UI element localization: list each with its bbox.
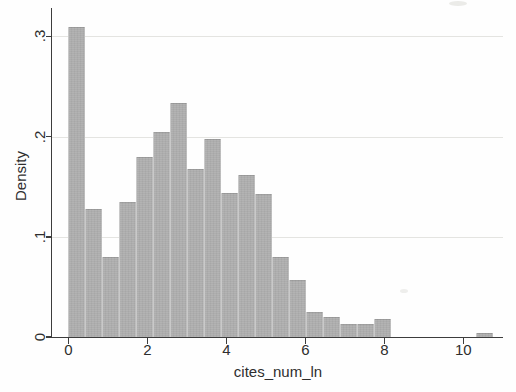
x-tick-label: 0 — [64, 342, 72, 357]
histogram-bar — [187, 169, 204, 337]
histogram-bar — [289, 280, 306, 337]
histogram-bar — [68, 27, 85, 337]
x-axis-title: cites_num_ln — [234, 363, 322, 380]
histogram-figure: 0246810 0.1.2.3 Density cites_num_ln — [0, 0, 516, 392]
gridline — [52, 36, 503, 37]
histogram-bar — [374, 319, 391, 337]
x-tick-label: 10 — [455, 342, 472, 357]
x-tick-mark — [68, 338, 70, 344]
histogram-bar — [255, 194, 272, 337]
x-tick-mark — [147, 338, 149, 344]
scan-artifact — [400, 289, 408, 293]
histogram-bar — [85, 209, 102, 337]
histogram-bar — [238, 175, 255, 337]
x-axis-line — [51, 337, 503, 339]
x-tick-label: 6 — [301, 342, 309, 357]
x-tick-label: 8 — [380, 342, 388, 357]
histogram-bar — [221, 193, 238, 337]
y-axis-title: Density — [12, 151, 29, 201]
histogram-bar — [102, 257, 119, 337]
x-tick-label: 2 — [143, 342, 151, 357]
histogram-bar — [357, 324, 374, 337]
histogram-bar — [119, 202, 136, 337]
y-axis-line — [51, 8, 53, 338]
y-tick-label: .1 — [32, 231, 47, 244]
y-tick-label: 0 — [32, 333, 47, 341]
x-tick-mark — [384, 338, 386, 344]
histogram-bar — [204, 139, 221, 337]
scan-artifact — [449, 1, 467, 6]
y-tick-mark — [46, 36, 52, 38]
histogram-bar — [170, 103, 187, 337]
histogram-bar — [153, 132, 170, 337]
gridline — [52, 137, 503, 138]
histogram-bar — [306, 312, 323, 337]
x-tick-mark — [463, 338, 465, 344]
histogram-bar — [323, 317, 340, 337]
histogram-bar — [340, 324, 357, 337]
histogram-bar — [272, 257, 289, 337]
y-tick-label: .3 — [32, 30, 47, 43]
y-tick-mark — [46, 336, 52, 338]
x-tick-mark — [305, 338, 307, 344]
y-tick-mark — [46, 136, 52, 138]
histogram-bar — [136, 157, 153, 337]
plot-area — [52, 10, 503, 337]
x-tick-label: 4 — [222, 342, 230, 357]
y-tick-label: .2 — [32, 130, 47, 143]
x-tick-mark — [226, 338, 228, 344]
y-tick-mark — [46, 236, 52, 238]
